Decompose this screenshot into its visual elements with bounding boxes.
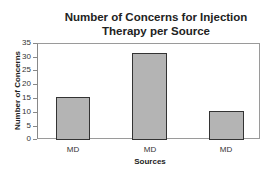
- x-tick-label: MD: [206, 145, 246, 154]
- x-tick-label: MD: [53, 145, 93, 154]
- y-tick-label: 5: [14, 122, 31, 130]
- y-tick-label: 25: [14, 66, 31, 74]
- y-tick-label: 35: [14, 39, 31, 47]
- x-axis-label: Sources: [130, 157, 170, 166]
- chart-title-line-2: Therapy per Source: [40, 24, 271, 38]
- y-tick-label: 15: [14, 94, 31, 102]
- y-tick-label: 10: [14, 108, 31, 116]
- bar-md-3: [209, 111, 244, 140]
- y-tick-label: 20: [14, 80, 31, 88]
- chart-title-line-1: Number of Concerns for Injection: [40, 10, 271, 24]
- chart-title: Number of Concerns for Injection Therapy…: [40, 10, 271, 38]
- x-tick-label: MD: [130, 145, 170, 154]
- y-tick-mark: [33, 139, 37, 140]
- bar-md-2: [132, 53, 167, 140]
- y-tick-label: 0: [14, 135, 31, 143]
- y-tick-label: 30: [14, 53, 31, 61]
- bar-md-1: [56, 97, 90, 140]
